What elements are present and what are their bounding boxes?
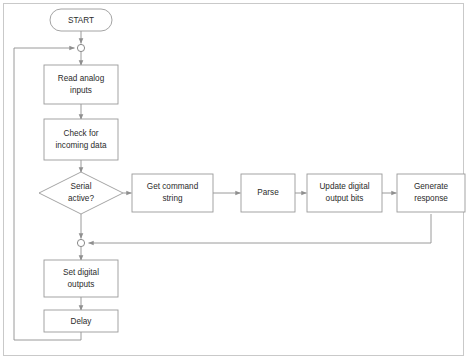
node-check-incoming-data-label-2: incoming data — [56, 141, 107, 150]
node-read-analog-inputs[interactable] — [44, 65, 118, 104]
node-get-command-string-label-2: string — [162, 194, 182, 203]
node-read-analog-inputs-label-1: Read analog — [58, 74, 105, 83]
node-get-command-string[interactable] — [132, 174, 213, 212]
node-update-digital-output-bits-label-2: output bits — [326, 194, 364, 203]
node-set-digital-outputs-label-2: outputs — [68, 280, 95, 289]
edge-generate-response-return — [89, 214, 432, 243]
node-generate-response-label-2: response — [414, 194, 448, 203]
node-serial-active-decision[interactable] — [39, 172, 123, 214]
node-start-label: START — [68, 16, 94, 25]
node-update-digital-output-bits-label-1: Update digital — [319, 182, 369, 191]
node-read-analog-inputs-label-2: inputs — [70, 86, 92, 95]
node-generate-response[interactable] — [397, 174, 465, 212]
node-check-incoming-data-label-1: Check for — [63, 129, 98, 138]
node-set-digital-outputs-label-1: Set digital — [63, 268, 99, 277]
node-set-digital-outputs[interactable] — [44, 260, 118, 297]
node-get-command-string-label-1: Get command — [147, 182, 199, 191]
node-delay-label-1: Delay — [71, 317, 93, 326]
flowchart-canvas: START Read analog inputs Check for incom… — [0, 0, 467, 361]
node-update-digital-output-bits[interactable] — [307, 174, 382, 212]
junction-top-loop-merge — [77, 44, 84, 51]
node-serial-active-label-2: active? — [68, 194, 94, 203]
junction-serial-branch-merge — [77, 239, 84, 246]
node-check-incoming-data[interactable] — [44, 119, 118, 160]
node-generate-response-label-1: Generate — [414, 182, 449, 191]
node-serial-active-label-1: Serial — [71, 182, 92, 191]
node-parse-label-1: Parse — [257, 188, 279, 197]
